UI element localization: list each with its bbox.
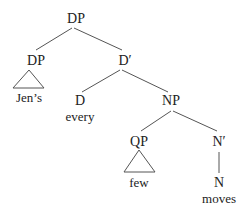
node-n-bar: N′ (212, 134, 225, 149)
tree-nodes: DP DP D′ Jen’s D every NP QP N′ few N mo… (16, 11, 236, 206)
node-d: D (75, 93, 85, 108)
triangle-spec-dp (13, 70, 44, 88)
node-root-dp: DP (67, 11, 85, 26)
terminal-every: every (66, 109, 95, 124)
terminal-moves: moves (202, 191, 236, 206)
edge-np-to-n-bar (173, 111, 217, 131)
node-d-bar: D′ (118, 53, 131, 68)
edge-d-bar-to-np (122, 70, 168, 92)
edge-root-to-spec-dp (36, 28, 72, 50)
tree-edges (13, 28, 219, 173)
edge-d-bar-to-d (82, 70, 120, 92)
node-np: NP (162, 93, 180, 108)
syntax-tree: DP DP D′ Jen’s D every NP QP N′ few N mo… (0, 0, 249, 216)
node-n: N (214, 175, 224, 190)
terminal-few: few (129, 175, 149, 190)
node-spec-dp: DP (27, 53, 45, 68)
triangle-qp (124, 150, 155, 172)
terminal-jens: Jen’s (16, 90, 42, 105)
node-qp: QP (130, 134, 148, 149)
edge-np-to-qp (141, 111, 171, 131)
edge-root-to-d-bar (74, 28, 122, 50)
